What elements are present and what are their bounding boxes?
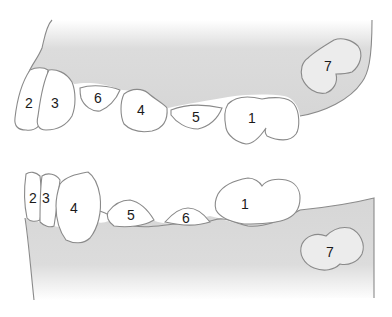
tooth-label: 2 <box>29 190 37 206</box>
upper-tooth-6: 6 <box>80 86 120 111</box>
tooth-label: 2 <box>25 95 33 111</box>
tooth-label: 4 <box>137 102 145 118</box>
tooth-label: 6 <box>94 90 102 106</box>
tooth-label: 1 <box>241 196 249 212</box>
lower-jaw: 2 3 4 5 6 1 7 <box>25 172 374 300</box>
lower-tooth-4: 4 <box>56 172 101 243</box>
tooth-label: 5 <box>127 207 135 223</box>
tooth-label: 3 <box>51 95 59 111</box>
tooth-label: 3 <box>42 190 50 206</box>
upper-jaw: 2 3 6 4 5 1 7 <box>15 20 372 144</box>
lower-tooth-2: 2 <box>25 172 42 221</box>
tooth-label: 7 <box>326 244 334 260</box>
upper-tooth-5: 5 <box>171 105 222 129</box>
upper-tooth-1: 1 <box>225 97 299 144</box>
tooth-label: 1 <box>248 110 256 126</box>
tooth-label: 6 <box>182 210 190 226</box>
tooth-label: 5 <box>192 109 200 125</box>
lower-tooth-5: 5 <box>107 200 154 227</box>
lower-tooth-1: 1 <box>215 178 300 224</box>
tooth-label: 7 <box>324 58 332 74</box>
lower-tooth-6: 6 <box>165 208 210 226</box>
tooth-label: 4 <box>70 200 78 216</box>
dental-diagram: 2 3 6 4 5 1 7 <box>0 0 392 317</box>
